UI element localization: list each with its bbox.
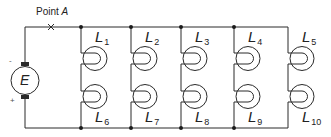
lamp-label-top: L3 [195,28,209,47]
source-e-label: E [20,72,29,88]
circuit-wiring [0,0,331,137]
lamp-label-top: L4 [248,28,262,47]
point-a-label: Point A [36,6,68,17]
lamp-label-bottom: L9 [248,108,262,127]
minus-sign: - [9,56,12,65]
lamp-label-bottom: L7 [145,108,159,127]
lamp-label-bottom: L6 [95,108,109,127]
lamp-label-bottom: L10 [302,108,321,127]
circuit-diagram: Point A E - + L1L2L3L4L5L6L7L8L9L10 [0,0,331,137]
lamp-label-top: L1 [95,28,109,47]
lamp-label-top: L2 [145,28,159,47]
lamp-label-bottom: L8 [195,108,209,127]
plus-sign: + [10,96,15,105]
lamp-label-top: L5 [302,28,316,47]
